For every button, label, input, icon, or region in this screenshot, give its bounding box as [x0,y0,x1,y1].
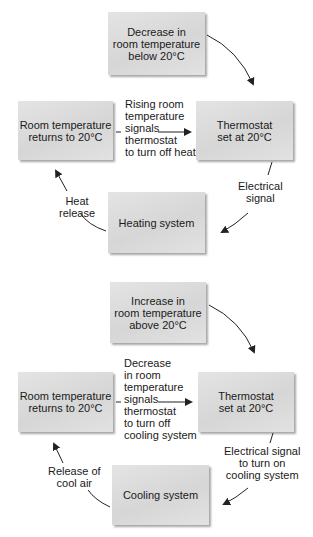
heating-signal-label: Electrical signal [238,180,283,204]
cooling-trigger-box: Increase in room temperature above 20°C [110,282,206,343]
arrow-cooler-release [88,490,110,507]
heating-release-label: Heat release [59,195,95,219]
arrow-thermostat-signal [268,162,272,175]
arrow-release-to-room [56,171,67,191]
arrow-cooling-thermostat-signal [270,433,273,443]
heating-thermostat-box: Thermostat set at 20°C [196,101,293,160]
cooling-thermostat-text: Thermostat set at 20°C [218,390,274,414]
cooling-room-box: Room temperature returns to 20°C [18,372,113,432]
arrow-signal-to-heater [222,213,248,232]
heating-system-text: Heating system [119,217,195,229]
heating-thermostat-text: Thermostat set at 20°C [217,119,273,143]
heating-system-box: Heating system [108,192,205,253]
cooling-system-text: Cooling system [123,489,198,501]
arrow-cool-release-to-room [54,444,63,463]
arrow-signal-to-cooler [224,488,248,504]
heating-feedback-label: Rising room temperature signals thermost… [125,98,196,158]
cooling-signal-label: Electrical signal to turn on cooling sys… [224,445,300,481]
cooling-trigger-text: Increase in room temperature above 20°C [114,295,201,331]
cooling-thermostat-box: Thermostat set at 20°C [198,372,294,432]
heating-room-text: Room temperature returns to 20°C [20,119,112,143]
cooling-release-label: Release of cool air [48,465,101,489]
arrow-cooling-trigger-to-thermostat [209,305,254,352]
cooling-system-box: Cooling system [112,465,209,525]
arrow-trigger-to-thermostat [207,35,253,84]
cooling-room-text: Room temperature returns to 20°C [20,390,112,414]
heating-room-box: Room temperature returns to 20°C [18,101,113,160]
cooling-feedback-label: Decrease in room temperature signals the… [124,357,197,441]
heating-trigger-box: Decrease in room temperature below 20°C [108,12,205,75]
heating-trigger-text: Decrease in room temperature below 20°C [113,26,200,62]
